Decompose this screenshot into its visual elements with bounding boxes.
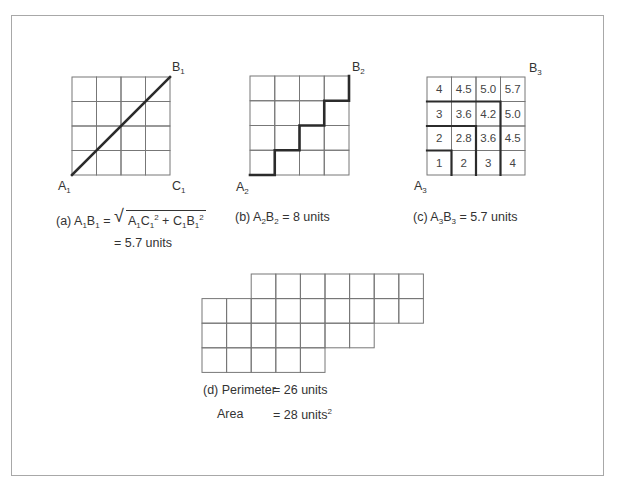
label-a1: A1: [58, 180, 71, 195]
area-cell: [251, 299, 276, 324]
distance-value: 5.7: [505, 83, 521, 95]
caption-a: (a) A1B1 = √A1C12 + C1B12: [56, 210, 206, 230]
grid-cell: [250, 150, 275, 175]
distance-value: 2: [436, 132, 442, 144]
grid-cell: [97, 77, 122, 102]
area-cell: [251, 348, 276, 373]
distance-value: 5.0: [480, 83, 496, 95]
square-root: √A1C12 + C1B12: [114, 210, 206, 230]
grid-cell: [121, 151, 146, 176]
distance-value: 4.2: [480, 108, 496, 120]
grid-cell: [300, 126, 325, 151]
grid-cell: [72, 77, 97, 102]
distance-value: 3: [436, 108, 442, 120]
distance-value: 5.0: [505, 108, 521, 120]
grid-cell: [146, 102, 171, 127]
area-cell: [300, 299, 325, 324]
grid-cell: [250, 126, 275, 151]
grid-cell: [324, 126, 349, 151]
area-cell: [276, 348, 301, 373]
distance-value: 2.8: [456, 132, 472, 144]
caption-a-result: = 5.7 units: [114, 236, 172, 250]
label-c1: C1: [172, 180, 185, 195]
area-cell: [227, 299, 252, 324]
caption-d-area-value: = 28 units2: [273, 407, 332, 422]
grid-cell: [275, 101, 300, 126]
area-cell: [399, 299, 424, 324]
distance-value: 4: [436, 83, 443, 95]
area-cell: [350, 274, 375, 299]
grid-cell: [300, 76, 325, 101]
area-cell: [300, 323, 325, 348]
caption-c: (c) A3B3 = 5.7 units: [413, 210, 517, 226]
grid-cell: [324, 101, 349, 126]
area-cell: [202, 348, 227, 373]
grid-cell: [300, 101, 325, 126]
grid-a: [72, 77, 170, 175]
label-b1: B1: [172, 61, 185, 76]
grid-c: 44.55.05.733.64.25.022.83.64.51234: [427, 77, 525, 175]
grid-cell: [72, 102, 97, 127]
grid-cell: [275, 76, 300, 101]
distance-value: 2: [461, 157, 467, 169]
grid-cell: [72, 126, 97, 151]
caption-b: (b) A2B2 = 8 units: [235, 210, 330, 226]
distance-value: 3: [485, 157, 491, 169]
area-cell: [350, 299, 375, 324]
area-cell: [276, 323, 301, 348]
grid-cell: [275, 150, 300, 175]
grid-cell: [146, 126, 171, 151]
grid-cell: [324, 76, 349, 101]
distance-value: 4: [510, 157, 517, 169]
area-cell: [300, 274, 325, 299]
grid-d: [202, 274, 423, 372]
area-cell: [276, 274, 301, 299]
caption-d-perimeter-label: (d) Perimeter: [203, 383, 276, 397]
grid-cell: [121, 126, 146, 151]
area-cell: [374, 299, 399, 324]
distance-value: 4.5: [456, 83, 472, 95]
area-cell: [202, 299, 227, 324]
grid-cell: [121, 77, 146, 102]
distance-value: 1: [436, 157, 442, 169]
caption-d-area-label: Area: [217, 407, 243, 421]
area-cell: [251, 323, 276, 348]
grid-cell: [324, 150, 349, 175]
distance-value: 4.5: [505, 132, 521, 144]
grid-cell: [250, 76, 275, 101]
grid-cell: [275, 126, 300, 151]
area-cell: [227, 323, 252, 348]
distance-value: 3.6: [480, 132, 496, 144]
area-cell: [202, 323, 227, 348]
label-a2: A2: [236, 181, 249, 196]
grid-cell: [250, 101, 275, 126]
area-cell: [350, 323, 375, 348]
label-b2: B2: [352, 61, 365, 76]
caption-d-perimeter-value: = 26 units: [273, 383, 328, 397]
grid-b: [250, 76, 349, 175]
area-cell: [399, 274, 424, 299]
area-cell: [374, 274, 399, 299]
area-cell: [300, 348, 325, 373]
grid-cell: [97, 151, 122, 176]
distance-value: 3.6: [456, 108, 472, 120]
area-cell: [251, 274, 276, 299]
label-b3: B3: [529, 62, 542, 77]
grid-cell: [146, 151, 171, 176]
area-cell: [325, 299, 350, 324]
area-cell: [227, 348, 252, 373]
area-cell: [325, 274, 350, 299]
grid-cell: [300, 150, 325, 175]
label-a3: A3: [414, 180, 427, 195]
area-cell: [276, 299, 301, 324]
area-cell: [325, 323, 350, 348]
grid-cell: [97, 102, 122, 127]
